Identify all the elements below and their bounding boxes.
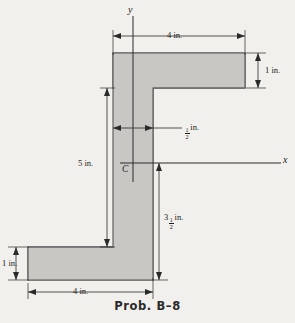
- dim-top-width-arrow-right: [237, 33, 245, 39]
- dim-bot-width-arrow-left: [28, 289, 36, 295]
- dim-five-in-arrow-top: [104, 88, 110, 96]
- dim-bot-width-arrow-right: [145, 289, 153, 295]
- centroid-label: C: [122, 164, 128, 174]
- dimension-label-height: 5 in.: [78, 159, 93, 168]
- z-section-body: [28, 53, 245, 280]
- dim-five-in-arrow-bottom: [104, 239, 110, 247]
- dim-bot-thick-arrow-bottom: [13, 272, 19, 280]
- fraction-one-half: 12: [185, 127, 190, 141]
- dim-three-half-arrow-bottom: [156, 272, 162, 280]
- dim-top-thick-arrow-top: [255, 53, 261, 61]
- dimension-label-top-flange-width: 4 in.: [167, 31, 182, 40]
- dimension-label-bottom-flange-thickness: 1 in.: [2, 259, 17, 268]
- web-thickness-unit: in.: [190, 122, 199, 132]
- dim-three-half-arrow-top: [156, 163, 162, 171]
- dim-bot-thick-arrow-top: [13, 247, 19, 255]
- figure-page: y x C 4 in. 1 in. 12in. 5 in. 312in. 1 i…: [0, 0, 295, 323]
- mixed-number-whole: 3: [164, 212, 168, 222]
- dimension-label-bottom-flange-width: 4 in.: [73, 287, 88, 296]
- x-axis-label: x: [283, 154, 287, 165]
- dim-top-thick-arrow-bottom: [255, 80, 261, 88]
- fraction-denominator-lower: 2: [169, 223, 174, 230]
- dimension-label-centroid-to-bottom: 312in.: [164, 213, 183, 231]
- fraction-one-half-lower: 12: [169, 217, 174, 231]
- figure-caption: Prob. B–8: [0, 299, 295, 313]
- z-section-figure: [0, 0, 295, 323]
- fraction-denominator: 2: [185, 133, 190, 140]
- dimension-label-top-flange-thickness: 1 in.: [265, 66, 280, 75]
- dim-top-width-arrow-left: [113, 33, 121, 39]
- y-axis-label: y: [128, 4, 132, 15]
- centroid-to-bottom-unit: in.: [175, 212, 184, 222]
- dimension-label-web-thickness: 12in.: [184, 123, 199, 141]
